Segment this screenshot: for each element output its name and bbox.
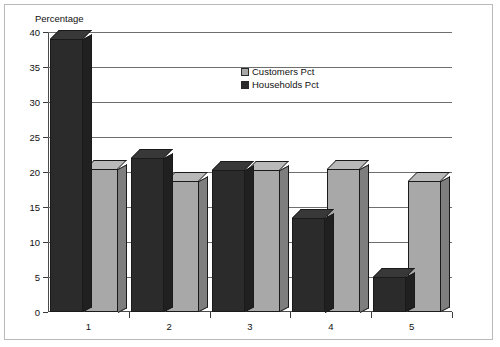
y-tick-mark [43, 137, 48, 138]
x-tick-mark [452, 312, 453, 318]
bar-side-face [199, 176, 208, 312]
x-tick-mark [290, 312, 291, 318]
y-tick-mark [43, 67, 48, 68]
x-tick-label: 5 [409, 321, 414, 332]
bar-front-face [212, 170, 245, 312]
bar-side-face [245, 165, 254, 312]
gridline [48, 102, 452, 103]
y-tick-mark [43, 172, 48, 173]
chart-legend: Customers PctHouseholds Pct [241, 66, 319, 90]
x-tick-label: 4 [328, 321, 333, 332]
y-tick-mark [43, 207, 48, 208]
y-tick-label: 10 [29, 237, 40, 248]
bar-side-face [441, 176, 450, 312]
bar-households-pct-2 [131, 158, 164, 312]
x-tick-label: 3 [247, 321, 252, 332]
x-tick-mark [371, 312, 372, 318]
bar-households-pct-3 [212, 170, 245, 312]
x-tick-mark [210, 312, 211, 318]
legend-item: Customers Pct [241, 66, 319, 77]
y-tick-mark [43, 102, 48, 103]
bar-households-pct-1 [50, 39, 83, 312]
bar-front-face [50, 39, 83, 312]
legend-swatch-icon [241, 81, 249, 89]
y-tick-label: 15 [29, 202, 40, 213]
legend-label: Customers Pct [252, 66, 314, 77]
bar-side-face [280, 165, 289, 312]
y-tick-label: 30 [29, 97, 40, 108]
bar-households-pct-4 [292, 218, 325, 313]
bar-side-face [406, 272, 415, 312]
y-tick-label: 20 [29, 167, 40, 178]
bar-households-pct-5 [373, 277, 406, 312]
gridline [48, 32, 452, 33]
bar-front-face [292, 218, 325, 313]
y-axis-title: Percentage [35, 13, 84, 24]
y-tick-mark [43, 242, 48, 243]
x-tick-mark [129, 312, 130, 318]
legend-label: Households Pct [252, 79, 319, 90]
x-tick-label: 1 [86, 321, 91, 332]
gridline [48, 137, 452, 138]
legend-swatch-icon [241, 68, 249, 76]
bar-side-face [360, 164, 369, 312]
bar-front-face [373, 277, 406, 312]
y-tick-label: 0 [35, 307, 40, 318]
y-tick-mark [43, 277, 48, 278]
y-tick-mark [43, 312, 48, 313]
y-tick-label: 5 [35, 272, 40, 283]
y-tick-label: 35 [29, 62, 40, 73]
y-tick-label: 25 [29, 132, 40, 143]
bar-side-face [118, 164, 127, 312]
bar-front-face [131, 158, 164, 312]
y-tick-mark [43, 32, 48, 33]
bar-side-face [325, 213, 334, 312]
legend-item: Households Pct [241, 79, 319, 90]
bar-side-face [83, 34, 92, 312]
y-tick-label: 40 [29, 27, 40, 38]
bar-side-face [164, 153, 173, 312]
chart-frame: Percentage 0510152025303540 12345 Custom… [4, 4, 493, 340]
x-tick-label: 2 [167, 321, 172, 332]
